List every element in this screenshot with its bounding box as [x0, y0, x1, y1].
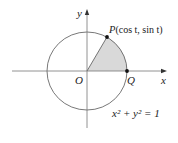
- y-axis-label: y: [76, 7, 82, 19]
- x-axis-arrow-icon: [161, 69, 167, 73]
- shaded-sector: [87, 37, 127, 71]
- unit-circle-diagram: y x O Q P(cos t, sin t) x² + y² = 1: [0, 0, 178, 143]
- point-q-dot: [125, 69, 129, 73]
- point-p-label: P(cos t, sin t): [108, 24, 163, 36]
- point-q-label: Q: [127, 74, 135, 86]
- point-p-dot: [105, 35, 109, 39]
- y-axis-arrow-icon: [85, 9, 89, 15]
- circle-equation: x² + y² = 1: [111, 107, 160, 119]
- origin-label: O: [75, 74, 83, 86]
- point-p-coords: (cos t, sin t): [115, 24, 162, 36]
- x-axis-label: x: [160, 74, 166, 86]
